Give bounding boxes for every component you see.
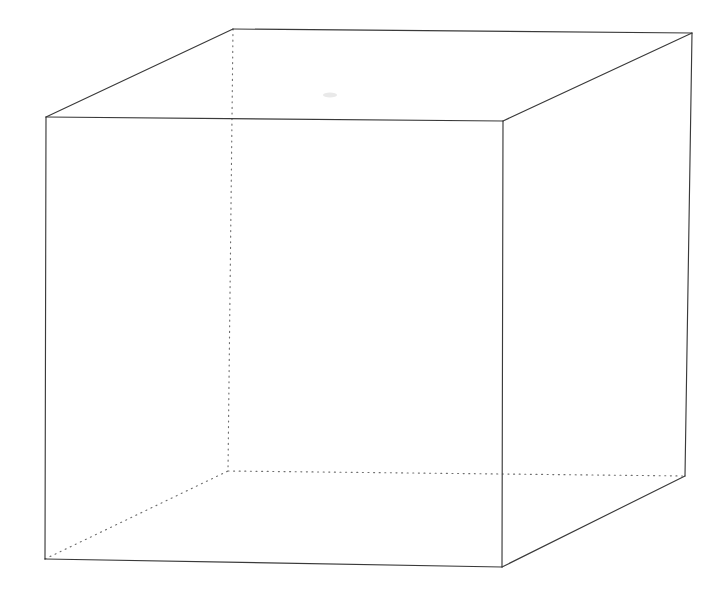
cube-edge-back-right — [685, 33, 692, 476]
cube-face-top — [46, 29, 692, 121]
cube-visible-edges — [45, 29, 692, 567]
cube-edge-front-left — [45, 117, 46, 559]
cube-edge-connect-top-left — [46, 29, 233, 117]
cube-edge-hidden-connect-bottom-left — [45, 471, 228, 559]
paper-artifacts — [323, 93, 337, 98]
cube-edge-hidden-back-left-vertical — [228, 29, 233, 471]
cube-faces — [45, 29, 692, 567]
cube-face-front — [45, 117, 503, 567]
faint-smudge-mark — [323, 93, 337, 98]
cube-edge-top-back — [233, 29, 692, 33]
cube-edge-front-right — [502, 121, 503, 567]
cube-edge-front-bottom — [45, 559, 502, 567]
wireframe-cube-svg — [0, 0, 726, 596]
cube-edge-connect-bottom-right — [502, 476, 685, 567]
cube-edge-connect-top-right — [503, 33, 692, 121]
cube-edge-front-top — [46, 117, 503, 121]
diagram-canvas — [0, 0, 726, 596]
cube-hidden-edges — [45, 29, 685, 559]
cube-edge-hidden-back-bottom — [228, 471, 685, 476]
